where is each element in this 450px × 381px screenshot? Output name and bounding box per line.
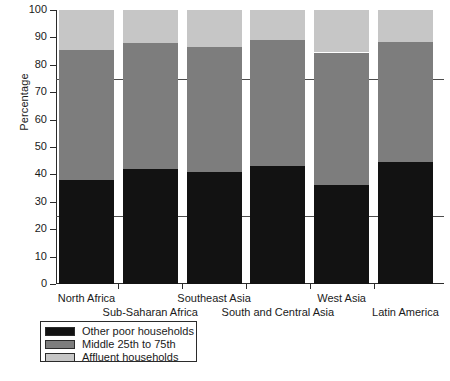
bar-latin-america[interactable] bbox=[378, 10, 433, 284]
bar-segment-middle bbox=[314, 53, 369, 186]
bar-segment-affluent bbox=[187, 10, 242, 47]
bar-sub-saharan-africa[interactable] bbox=[123, 10, 178, 284]
y-tick-label: 30 bbox=[35, 195, 47, 208]
chart-legend: Other poor households Middle 25th to 75t… bbox=[40, 321, 197, 362]
bar-segment-middle bbox=[378, 42, 433, 163]
bar-segment-poor bbox=[250, 166, 305, 284]
bar-segment-affluent bbox=[314, 10, 369, 52]
legend-label-middle: Middle 25th to 75th bbox=[82, 338, 176, 350]
legend-label-affluent: Affluent households bbox=[82, 351, 178, 363]
y-tick-label: 70 bbox=[35, 85, 47, 98]
y-tick-label: 100 bbox=[29, 3, 47, 16]
bar-segment-affluent bbox=[123, 10, 178, 43]
plot-area bbox=[56, 10, 444, 284]
legend-swatch-poor bbox=[45, 327, 75, 336]
bar-segment-poor bbox=[59, 180, 114, 284]
bar-segment-poor bbox=[378, 162, 433, 284]
legend-item: Other poor households bbox=[45, 325, 192, 337]
bar-segment-poor bbox=[123, 169, 178, 284]
bar-segment-affluent bbox=[378, 10, 433, 42]
y-tick-mark bbox=[50, 284, 56, 285]
bar-segment-poor bbox=[314, 185, 369, 284]
x-axis-label: Latin America bbox=[325, 305, 450, 319]
y-tick-label: 90 bbox=[35, 30, 47, 43]
bar-segment-affluent bbox=[250, 10, 305, 40]
bar-south-and-central-asia[interactable] bbox=[250, 10, 305, 284]
bar-segment-poor bbox=[187, 172, 242, 284]
stacked-bar-chart: Percentage 0102030405060708090100 North … bbox=[0, 0, 450, 381]
y-axis-tick: 0 bbox=[50, 284, 56, 285]
y-tick-label: 0 bbox=[41, 277, 47, 290]
x-axis-label: West Asia bbox=[262, 291, 422, 305]
bar-north-africa[interactable] bbox=[59, 10, 114, 284]
y-tick-label: 60 bbox=[35, 113, 47, 126]
bar-segment-middle bbox=[250, 40, 305, 166]
y-tick-label: 10 bbox=[35, 250, 47, 263]
bar-southeast-asia[interactable] bbox=[187, 10, 242, 284]
legend-swatch-middle bbox=[45, 340, 75, 349]
y-tick-label: 20 bbox=[35, 222, 47, 235]
y-tick-label: 50 bbox=[35, 140, 47, 153]
bar-west-asia[interactable] bbox=[314, 10, 369, 284]
bar-segment-middle bbox=[59, 50, 114, 180]
legend-item: Affluent households bbox=[45, 351, 192, 363]
y-tick-label: 40 bbox=[35, 167, 47, 180]
y-axis-title: Percentage bbox=[18, 42, 30, 162]
y-tick-label: 80 bbox=[35, 58, 47, 71]
bar-segment-middle bbox=[187, 47, 242, 172]
legend-item: Middle 25th to 75th bbox=[45, 338, 192, 350]
bar-segment-middle bbox=[123, 43, 178, 169]
bar-segment-affluent bbox=[59, 10, 114, 50]
legend-label-poor: Other poor households bbox=[82, 325, 194, 337]
legend-swatch-affluent bbox=[45, 353, 75, 362]
